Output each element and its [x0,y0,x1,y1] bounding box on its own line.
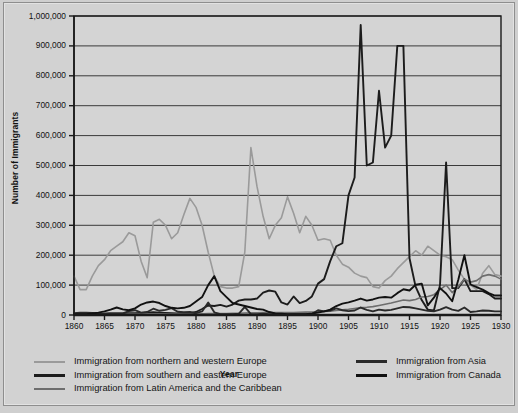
y-axis-tick-label: 100,000 [4,280,66,290]
legend-swatch-line-icon [34,388,65,390]
y-axis-tick-label: 600,000 [4,130,66,140]
x-axis-tick-label: 1930 [487,321,515,331]
x-axis-tick-label: 1915 [396,321,424,331]
legend-item: Immigration from Latin America and the C… [34,382,282,396]
x-axis-tick-label: 1865 [91,321,119,331]
y-axis-tick-label: 0 [4,310,66,320]
y-axis-tick-label: 200,000 [4,250,66,260]
y-axis-tick-label: 700,000 [4,100,66,110]
y-axis-tick-label: 900,000 [4,40,66,50]
line-chart-plot [4,3,514,348]
legend-item: Immigration from southern and eastern Eu… [34,369,282,383]
x-axis-tick-label: 1880 [182,321,210,331]
y-axis-tick-label: 800,000 [4,70,66,80]
x-axis-tick-label: 1890 [243,321,271,331]
legend-item: Immigration from Asia [356,355,501,369]
y-axis-tick-label: 500,000 [4,160,66,170]
legend-column-right: Immigration from AsiaImmigration from Ca… [356,355,501,382]
x-axis-tick-label: 1910 [365,321,393,331]
legend-swatch-line-icon [34,374,65,377]
x-axis-tick-label: 1885 [213,321,241,331]
x-axis-tick-label: 1875 [152,321,180,331]
legend-swatch-line-icon [356,360,387,363]
x-axis-tick-label: 1870 [121,321,149,331]
legend-item: Immigration from Canada [356,369,501,383]
chart-legend: Immigration from northern and western Eu… [26,355,496,403]
legend-label: Immigration from Canada [396,369,501,383]
legend-swatch-line-icon [34,361,65,363]
legend-label: Immigration from southern and eastern Eu… [74,369,267,383]
chart-frame: Number of Immigrants Year 18601865187018… [3,2,515,406]
x-axis-tick-label: 1860 [60,321,88,331]
legend-label: Immigration from Latin America and the C… [74,382,282,396]
y-axis-title: Number of Immigrants [10,93,20,223]
legend-column-left: Immigration from northern and western Eu… [34,355,282,396]
y-axis-tick-label: 400,000 [4,190,66,200]
x-axis-tick-label: 1925 [457,321,485,331]
chart-area: Number of Immigrants Year 18601865187018… [4,3,514,348]
legend-label: Immigration from Asia [396,355,486,369]
x-axis-tick-label: 1895 [274,321,302,331]
y-axis-tick-label: 300,000 [4,220,66,230]
x-axis-tick-label: 1900 [304,321,332,331]
x-axis-tick-label: 1920 [426,321,454,331]
x-axis-tick-label: 1905 [335,321,363,331]
legend-label: Immigration from northern and western Eu… [74,355,267,369]
legend-item: Immigration from northern and western Eu… [34,355,282,369]
legend-swatch-line-icon [356,374,387,377]
y-axis-tick-label: 1,000,000 [4,11,66,21]
